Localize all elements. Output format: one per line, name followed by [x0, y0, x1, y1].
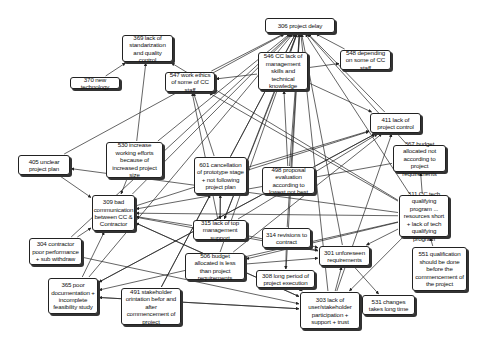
node-365[interactable]: 365 poor documentation + incomplete feas…	[48, 278, 98, 314]
edge-601-to-411	[248, 131, 369, 167]
edge-315-to-309	[136, 217, 192, 226]
node-304[interactable]: 304 contractor poor performance + sub wi…	[29, 238, 82, 265]
edge-308-to-303	[300, 289, 303, 291]
node-405[interactable]: 405 unclear project plan	[18, 155, 70, 175]
edge-506-to-301	[246, 258, 318, 264]
edge-405-to-306	[64, 34, 284, 154]
node-301[interactable]: 301 unforeseen requirements	[319, 246, 370, 266]
edge-530-to-369	[137, 63, 146, 141]
edge-314-to-301	[312, 246, 318, 248]
edge-301-to-531	[354, 267, 378, 294]
node-546[interactable]: 546 CC lack of management skills and tec…	[258, 52, 308, 90]
edge-311-to-301	[366, 229, 398, 245]
node-367[interactable]: 367 budget allocated not according to pr…	[393, 145, 446, 172]
edge-601-to-547	[194, 93, 215, 156]
node-369[interactable]: 369 lack of standarization and quality c…	[122, 35, 173, 62]
node-531[interactable]: 531 changes takes long time	[362, 295, 415, 315]
node-506[interactable]: 506 budget allocated is less than projec…	[185, 253, 245, 280]
edge-303-to-411	[337, 134, 392, 291]
edge-546-to-547	[216, 74, 257, 79]
node-498[interactable]: 498 proposal evaluation according to low…	[262, 167, 315, 194]
node-530[interactable]: 530 increase working efforts because of …	[106, 142, 163, 178]
node-309[interactable]: 309 bad communication between CC & Contr…	[92, 195, 135, 231]
edge-311-to-309	[136, 213, 398, 216]
node-314[interactable]: 314 revisions to contract	[262, 228, 311, 248]
node-370[interactable]: 370 new technology	[70, 77, 120, 89]
node-308[interactable]: 308 long period of project execution	[256, 270, 315, 288]
edge-365-to-309	[82, 232, 104, 277]
node-548[interactable]: 548 depending on some of CC staff	[340, 50, 391, 70]
edge-405-to-309	[60, 176, 91, 197]
edge-498-to-546	[284, 91, 288, 166]
node-551[interactable]: 551 qualification should be done before …	[412, 247, 467, 291]
node-303[interactable]: 303 lack of user/stakeholder participati…	[300, 292, 360, 329]
node-306[interactable]: 306 project delay	[265, 18, 335, 33]
node-601[interactable]: 601 cancellation of prototype stage + no…	[194, 157, 247, 194]
node-311[interactable]: 311 CC tech qualifying program ... resou…	[399, 195, 449, 237]
edge-370-to-369	[106, 63, 126, 76]
node-547[interactable]: 547 work ethics of some of CC staff	[165, 72, 215, 92]
node-315[interactable]: 315 lack of top management support	[193, 220, 247, 240]
node-491[interactable]: 491 stakeholder orintation befor and aft…	[121, 288, 181, 325]
edge-309-to-411	[136, 131, 369, 205]
node-411[interactable]: 411 lack of project control	[370, 113, 421, 133]
